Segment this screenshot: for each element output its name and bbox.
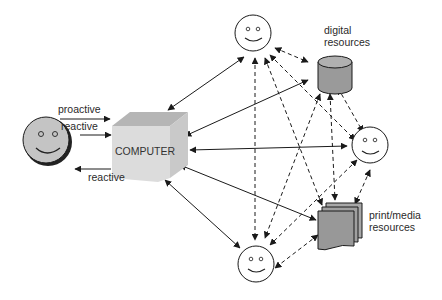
edge-digital-person-right — [338, 88, 363, 132]
print-resources-label-line1: print/media — [369, 209, 421, 221]
digital-resources-label-line1: digital — [324, 24, 351, 36]
person-bottom-node — [238, 246, 274, 282]
proactive-label: proactive — [58, 103, 101, 115]
edge-person-right-print — [355, 170, 370, 204]
edge-print-person-bottom — [275, 235, 318, 268]
edge-digital-person-bottom — [265, 94, 320, 238]
computer-label: COMPUTER — [115, 145, 175, 157]
print-resources-node — [318, 203, 362, 250]
edge-computer-person-top — [168, 57, 244, 110]
person-top-node — [235, 15, 271, 51]
edge-digital-print — [330, 94, 335, 200]
print-resources-label-line2: resources — [369, 221, 415, 233]
edge-person-top-print — [265, 58, 322, 205]
reactive-out-label: reactive — [88, 171, 125, 183]
edge-computer-person-bottom — [165, 180, 240, 248]
edge-person-top-digital — [275, 48, 308, 62]
digital-resources-node — [318, 56, 352, 94]
person-right-node — [352, 127, 388, 163]
edge-computer-person-right — [190, 146, 347, 150]
digital-resources-label-line2: resources — [324, 36, 370, 48]
reactive-in-label: reactive — [61, 120, 98, 132]
edge-computer-digital — [185, 80, 308, 136]
information-flow-diagram: proactive reactive reactive COMPUTER dig… — [0, 0, 442, 300]
